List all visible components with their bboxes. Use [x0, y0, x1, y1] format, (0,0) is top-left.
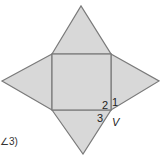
partial-text-fragment: ∠3) — [0, 137, 18, 147]
left-triangle-face — [2, 54, 52, 110]
angle-3-label: 3 — [97, 113, 103, 124]
angle-2-label: 2 — [102, 100, 108, 111]
pyramid-net-figure — [0, 0, 160, 155]
vertex-v-label: V — [112, 117, 119, 128]
angle-1-label: 1 — [112, 97, 118, 108]
right-triangle-face — [111, 54, 159, 110]
top-triangle-face — [52, 6, 111, 54]
